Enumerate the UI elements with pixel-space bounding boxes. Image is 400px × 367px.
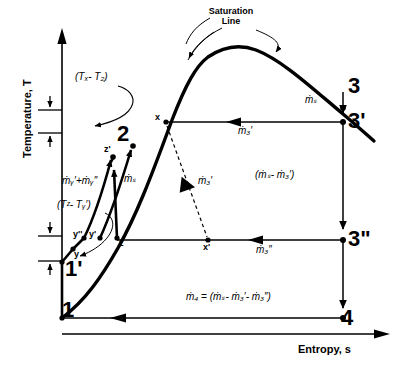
leader-saturation-left: [188, 28, 222, 60]
saturation-curve: [62, 47, 374, 318]
state-label-y: y: [74, 250, 79, 259]
delta-tx-t2-label: (Tₓ- T₂): [75, 72, 108, 82]
flow-label-m4-equation: ṁ₄ = (ṁₛ- ṁ₃′- ṁ₃″): [186, 292, 271, 302]
flow-label-m3p: ṁ₃′: [238, 126, 252, 136]
state-label-3p: 3': [348, 110, 365, 132]
line-4-to-1: [62, 313, 343, 322]
x-axis-label: Entropy, s: [298, 344, 351, 355]
state-label-4: 4: [341, 307, 353, 329]
flow-label-m3p-dashed: ṁ₃′: [198, 176, 212, 186]
state-label-zp: z': [104, 145, 111, 154]
saturation-line-label-part1: Saturation: [209, 6, 254, 16]
state-dots: [59, 105, 346, 321]
flow-label-ms-top: ṁₛ: [305, 95, 317, 105]
ts-diagram-figure: Temperature, T Entropy, s Saturation Lin…: [0, 0, 400, 367]
y-axis-label: Temperature, T: [22, 79, 33, 158]
state-label-1: 1: [62, 299, 74, 321]
saturation-line-label: Saturation Line: [200, 6, 262, 27]
line-3p-to-x: [166, 118, 343, 127]
state-label-3pp: 3": [348, 228, 371, 250]
flow-label-ms-left: ṁₛ: [124, 174, 136, 184]
delta-tz-ty-label: (Tᶻ- Tᵧ′): [57, 200, 91, 210]
delta-tz-ty-ticks: [38, 222, 62, 275]
saturation-line-label-part2: Line: [222, 16, 241, 26]
state-label-x: x: [155, 113, 160, 122]
leader-saturation-right: [256, 30, 278, 52]
axis-x: [62, 329, 390, 338]
flow-label-ms-minus-m3p: (ṁₛ- ṁ₃′): [255, 170, 294, 180]
delta-tx-t2-ticks: [38, 96, 62, 147]
state-label-z: z: [119, 239, 124, 248]
state-label-ypp: y'': [73, 230, 82, 239]
line-3pp-to-xp: [117, 236, 343, 245]
flow-label-m3pp: ṁ₃″: [256, 245, 272, 255]
state-label-yp: y': [89, 230, 96, 239]
state-label-1p: 1': [65, 258, 82, 280]
state-label-2: 2: [117, 123, 129, 145]
state-label-xp: x': [203, 243, 210, 252]
leader-delta-tx-t2: [95, 86, 133, 126]
flow-label-my-sum: ṁᵧ′+ṁᵧ″: [62, 176, 97, 186]
state-label-3: 3: [348, 75, 360, 97]
